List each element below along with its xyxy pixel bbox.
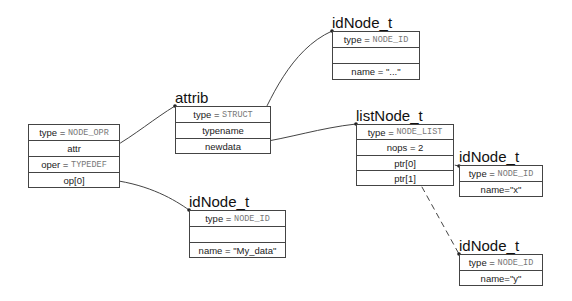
idnode-type-row: type = NODE_ID [460,166,542,182]
idnode-empty-row [190,227,285,243]
field-label: typename [202,125,244,136]
field-label: ptr[1] [394,173,416,184]
field-label: type = [205,213,231,224]
idnode-top-box: type = NODE_ID name = "..." [332,31,420,80]
listnode-type-row: type = NODE_LIST [357,125,453,140]
listnode-ptr0-row: ptr[0] [357,156,453,171]
field-label: attr [67,143,81,154]
listnode-ptr1-row: ptr[1] [357,171,453,185]
field-value: NODE_ID [498,258,534,268]
node-title: idNode_t [332,15,392,30]
idnode-type-row: type = NODE_ID [460,255,542,271]
field-label: op[0] [63,175,84,186]
opr-attr-row: attr [29,141,119,157]
field-label: type = [39,127,65,138]
node-title: idNode_t [459,238,519,253]
field-value: NODE_OPR [68,128,109,138]
edge-newdata-to-listnode [256,124,356,143]
field-label: ptr[0] [394,158,416,169]
field-value: NODE_ID [234,214,270,224]
idnode-name-row: name = "My_data" [190,243,285,257]
opr-op0-row: op[0] [29,173,119,187]
node-title: idNode_t [189,194,249,209]
field-value: STRUCT [222,110,253,120]
node-title: attrib [175,90,208,105]
idnode-name-row: name="y" [460,271,542,285]
field-label: name = "..." [351,66,400,77]
node-title: idNode_t [459,149,519,164]
idnode-type-row: type = NODE_ID [333,32,419,48]
opr-node-box: type = NODE_OPR attr oper = TYPEDEF op[0… [28,124,120,188]
idnode-name-row: name = "..." [333,64,419,79]
field-label: name="x" [481,184,522,195]
idnode-mydata-box: type = NODE_ID name = "My_data" [189,210,286,258]
field-label: newdata [205,141,241,152]
idnode-name-row: name="x" [460,182,542,196]
field-label: name = "My_data" [199,245,277,256]
field-value: NODE_ID [498,169,534,179]
field-label: oper = [41,159,68,170]
field-label: type = [469,168,495,179]
field-label: type = [193,109,219,120]
field-label: type = [344,34,370,45]
listnode-nops-row: nops = 2 [357,140,453,156]
attrib-newdata-row: newdata [176,139,270,153]
edge-attr-to-attrib [112,106,175,148]
field-value: TYPEDEF [71,160,107,170]
edge-op0-to-idnode [112,180,189,210]
idnode-type-row: type = NODE_ID [190,211,285,227]
attrib-typename-row: typename [176,123,270,139]
opr-oper-row: oper = TYPEDEF [29,157,119,173]
idnode-empty-row [333,48,419,64]
edge-ptr1-to-idnode-y [417,178,459,254]
idnode-x-box: type = NODE_ID name="x" [459,165,543,197]
attrib-type-row: type = STRUCT [176,107,270,123]
field-label: type = [368,127,394,138]
field-label: name="y" [481,273,522,284]
node-title: listNode_t [356,108,423,123]
listnode-box: type = NODE_LIST nops = 2 ptr[0] ptr[1] [356,124,454,186]
field-value: NODE_LIST [396,127,442,137]
idnode-y-box: type = NODE_ID name="y" [459,254,543,286]
field-value: NODE_ID [373,35,409,45]
attrib-node-box: type = STRUCT typename newdata [175,106,271,154]
opr-type-row: type = NODE_OPR [29,125,119,141]
field-label: nops = 2 [387,142,424,153]
field-label: type = [469,257,495,268]
